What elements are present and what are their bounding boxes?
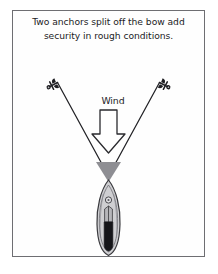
sailboat-hull: [97, 180, 120, 256]
anchoring-diagram: [12, 10, 205, 257]
left-anchor-icon: [45, 78, 60, 93]
cockpit: [104, 222, 113, 251]
wind-label: Wind: [92, 95, 134, 106]
bow-wedge: [96, 162, 121, 182]
right-anchor-icon: [157, 78, 172, 93]
anchoring-illustration-card: Two anchors split off the bow add securi…: [0, 0, 218, 274]
wind-arrow-icon: [92, 110, 125, 153]
